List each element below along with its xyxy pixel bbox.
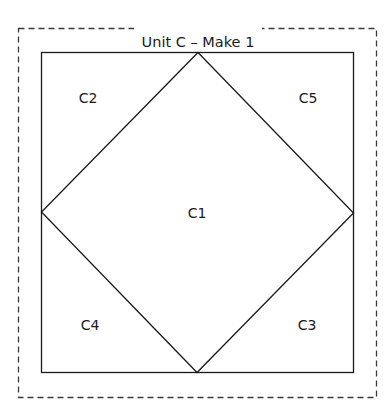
title-background [134, 26, 262, 32]
piece-label-c2: C2 [79, 90, 98, 106]
diagram-title: Unit C – Make 1 [142, 34, 255, 50]
quilt-block-diagram: Unit C – Make 1 C2 C5 C1 C4 C3 [0, 0, 389, 402]
piece-label-c4: C4 [81, 317, 100, 333]
piece-label-c5: C5 [299, 90, 318, 106]
piece-label-c3: C3 [298, 317, 317, 333]
piece-label-c1: C1 [188, 205, 207, 221]
